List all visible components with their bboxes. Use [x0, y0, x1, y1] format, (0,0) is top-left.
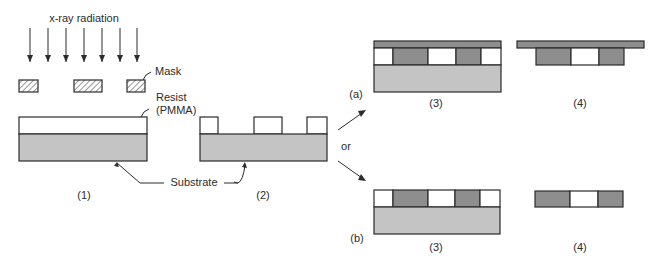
branch-b-step-4-structure [535, 191, 623, 207]
substrate-layer [374, 207, 500, 234]
metal-post [599, 48, 624, 65]
overplated-metal-layer [374, 41, 501, 48]
branch-a-step-3-structure [374, 41, 501, 92]
resist-label: Resist [156, 91, 187, 103]
branch-a-step-4-structure [517, 41, 644, 65]
step-1-structure [19, 117, 147, 161]
step-2-label: (2) [256, 189, 269, 201]
branch-a-step-4-label: (4) [573, 97, 586, 109]
substrate-leader-right [224, 182, 238, 183]
resist-label-pmma: (PMMA) [156, 104, 196, 116]
x-ray-radiation-label: x-ray radiation [49, 12, 119, 24]
resist-block [374, 48, 393, 65]
mask-segment [19, 80, 38, 92]
mask [19, 80, 145, 92]
substrate-layer [200, 134, 327, 161]
substrate-label: Substrate [170, 176, 217, 188]
resist-block [480, 190, 500, 207]
deposit-block [455, 190, 480, 207]
resist-layer [19, 117, 147, 134]
radiation-arrows [27, 28, 140, 62]
resist-block [307, 117, 327, 134]
lithography-process-diagram: x-ray radiation Mask Resist (PMMA) Subst… [0, 0, 662, 270]
substrate-layer [19, 134, 147, 161]
gap [570, 191, 598, 207]
branch-a-label: (a) [349, 88, 362, 100]
deposit-block [456, 48, 481, 65]
arrow-branch-a-icon [338, 113, 362, 130]
resist-block [428, 48, 456, 65]
mask-leader-line [143, 72, 151, 80]
resist-block [481, 48, 501, 65]
mask-label: Mask [155, 65, 182, 77]
metal-part [598, 191, 623, 207]
branch-b-label: (b) [350, 232, 363, 244]
branch-b-step-3-label: (3) [429, 241, 442, 253]
or-label: or [341, 140, 351, 152]
resist-leader-line [141, 109, 149, 117]
step-1-label: (1) [77, 189, 90, 201]
resist-block [428, 190, 455, 207]
substrate-layer [374, 65, 501, 92]
cavity [571, 48, 599, 65]
metal-post [536, 48, 571, 65]
metal-top-plate [517, 41, 644, 48]
mask-segment [127, 80, 145, 92]
metal-part [535, 191, 570, 207]
resist-block [254, 117, 282, 134]
step-2-structure [200, 117, 327, 161]
branch-b-step-4-label: (4) [573, 241, 586, 253]
resist-block [374, 190, 393, 207]
substrate-leader-left [117, 163, 164, 183]
deposit-block [393, 190, 428, 207]
resist-block [200, 117, 218, 134]
mask-segment [74, 80, 102, 92]
branch-b-step-3-structure [374, 190, 500, 234]
branch-a-step-3-label: (3) [429, 97, 442, 109]
deposit-block [393, 48, 428, 65]
arrow-branch-b-icon [338, 161, 362, 178]
